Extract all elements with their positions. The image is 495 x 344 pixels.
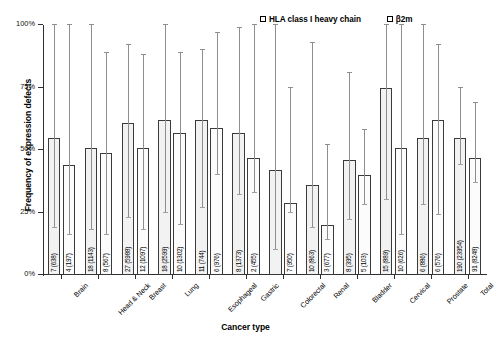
- x-tick: [357, 275, 358, 279]
- bar-value-label: 4 (197): [65, 253, 72, 272]
- error-bar-cap: [178, 52, 183, 53]
- error-bar-cap: [458, 164, 463, 165]
- bar-value-label: 5 (103): [360, 253, 367, 272]
- error-bar: [423, 25, 424, 205]
- error-bar: [290, 88, 291, 213]
- error-bar-cap: [273, 249, 278, 250]
- error-bar: [275, 25, 276, 250]
- error-bar-cap: [215, 174, 220, 175]
- x-tick: [209, 275, 210, 279]
- bar-value-label: 91 (8248): [471, 247, 478, 272]
- error-bar-cap: [126, 44, 131, 45]
- error-bar-cap: [141, 229, 146, 230]
- error-bar: [401, 25, 402, 235]
- y-tick: 75%: [38, 87, 43, 88]
- error-bar-cap: [237, 27, 242, 28]
- error-bar-cap: [399, 234, 404, 235]
- error-bar-cap: [252, 192, 257, 193]
- error-bar-cap: [421, 24, 426, 25]
- error-bar: [254, 25, 255, 193]
- x-category-label: Renal: [331, 281, 350, 300]
- error-bar-cap: [163, 24, 168, 25]
- bar-value-label: 8 (1373): [235, 250, 242, 272]
- bar-value-label: 6 (576): [434, 253, 441, 272]
- error-bar-cap: [52, 24, 57, 25]
- error-bar-cap: [310, 227, 315, 228]
- y-tick: 50%: [38, 149, 43, 150]
- error-bar: [460, 88, 461, 166]
- error-bar: [69, 25, 70, 235]
- error-bar-cap: [141, 54, 146, 55]
- y-tick-label: 50%: [20, 144, 35, 153]
- error-bar-cap: [362, 204, 367, 205]
- error-bar-cap: [252, 24, 257, 25]
- x-tick: [394, 275, 395, 279]
- x-category-label: Esophageal: [226, 281, 259, 314]
- legend-entry-b2m: β2m: [387, 15, 413, 24]
- bar-value-label: 15 (889): [382, 250, 389, 272]
- legend-swatch-hla-icon: [260, 16, 266, 22]
- bar: 7 (950): [284, 203, 297, 276]
- x-tick: [283, 275, 284, 279]
- y-tick: 25%: [38, 212, 43, 213]
- y-tick-label: 100%: [16, 19, 35, 28]
- error-bar: [312, 43, 313, 228]
- bar-value-label: 27 (5988): [124, 247, 131, 272]
- error-bar-cap: [473, 182, 478, 183]
- error-bar: [128, 45, 129, 218]
- error-bar: [475, 103, 476, 183]
- x-tick: [320, 275, 321, 279]
- error-bar-cap: [436, 44, 441, 45]
- error-bar-cap: [89, 24, 94, 25]
- error-bar-cap: [310, 42, 315, 43]
- bar-value-label: 8 (567): [102, 253, 109, 272]
- plot-area: 0%25%50%75%100% 7 (638)4 (197)18 (1143)8…: [43, 25, 486, 275]
- bar-value-label: 8 (395): [345, 253, 352, 272]
- error-bar: [327, 145, 328, 240]
- error-bar-cap: [178, 224, 183, 225]
- bar-value-label: 7 (950): [287, 253, 294, 272]
- bar-value-label: 18 (2599): [161, 247, 168, 272]
- error-bar: [438, 45, 439, 215]
- error-bar: [54, 25, 55, 228]
- error-bar: [143, 55, 144, 230]
- error-bar-cap: [384, 199, 389, 200]
- error-bar-cap: [288, 212, 293, 213]
- error-bar-cap: [288, 87, 293, 88]
- legend-label-hla: HLA class I heavy chain: [269, 15, 361, 24]
- error-bar: [217, 33, 218, 176]
- y-tick-label: 75%: [20, 82, 35, 91]
- bar-value-label: 18 (1143): [87, 247, 94, 272]
- legend-label-b2m: β2m: [396, 15, 413, 24]
- x-tick: [172, 275, 173, 279]
- y-tick-label: 25%: [20, 207, 35, 216]
- error-bar-cap: [200, 49, 205, 50]
- bar-value-label: 10 (626): [397, 250, 404, 272]
- x-category-label: Brain: [72, 281, 90, 299]
- y-tick: 100%: [38, 24, 43, 25]
- error-bar-cap: [273, 24, 278, 25]
- x-tick: [98, 275, 99, 279]
- bar-value-label: 2 (455): [250, 253, 257, 272]
- error-bar-cap: [67, 234, 72, 235]
- x-axis-title: Cancer type: [0, 322, 491, 332]
- error-bar-cap: [200, 207, 205, 208]
- bar-value-label: 10 (863): [309, 250, 316, 272]
- error-bar-cap: [237, 194, 242, 195]
- bar-value-label: 12 (1097): [139, 247, 146, 272]
- error-bar: [364, 130, 365, 205]
- error-bar-cap: [347, 72, 352, 73]
- x-tick: [135, 275, 136, 279]
- x-tick: [431, 275, 432, 279]
- error-bar-cap: [384, 24, 389, 25]
- error-bar: [386, 25, 387, 200]
- error-bar: [165, 25, 166, 213]
- error-bar-cap: [52, 227, 57, 228]
- legend-swatch-b2m-icon: [387, 16, 393, 22]
- y-tick-label: 0%: [24, 269, 35, 278]
- error-bar-cap: [458, 87, 463, 88]
- error-bar-cap: [126, 217, 131, 218]
- error-bar-cap: [436, 214, 441, 215]
- y-axis-line: [43, 25, 44, 276]
